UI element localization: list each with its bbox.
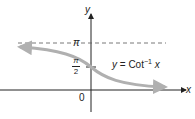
eq-sup: −1 [144,58,152,65]
eq-x: x [152,59,160,70]
x-axis-label: x [186,85,191,95]
chart-canvas [0,0,195,119]
eq-mid: = Cot [117,59,144,70]
origin-label: 0 [79,93,85,103]
function-label: y = Cot−1 x [112,58,160,70]
pi-label: π [73,38,80,48]
pi-half-label: π 2 [71,57,81,76]
pi-half-numerator: π [71,57,81,65]
pi-half-denominator: 2 [71,68,81,76]
y-axis-label: y [85,5,90,15]
